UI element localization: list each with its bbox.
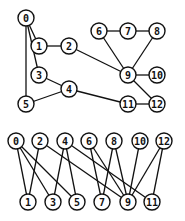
node-label: 5 (23, 99, 29, 110)
top-node-4: 4 (61, 81, 77, 97)
node-label: 5 (74, 197, 80, 208)
node-label: 12 (158, 136, 170, 147)
node-label: 6 (96, 26, 102, 37)
node-label: 11 (122, 99, 134, 110)
top-node-1: 1 (31, 38, 47, 54)
top-node-5: 5 (18, 96, 34, 112)
original-graph: 0123456789101112 (18, 10, 165, 112)
node-label: 9 (125, 70, 131, 81)
bottom-node-6: 6 (81, 133, 97, 149)
node-label: 8 (111, 136, 117, 147)
node-label: 2 (37, 136, 43, 147)
bottom-node-0: 0 (8, 133, 24, 149)
node-label: 0 (13, 136, 19, 147)
node-label: 1 (25, 197, 31, 208)
node-label: 6 (86, 136, 92, 147)
bottom-edge-8-7 (102, 141, 114, 202)
node-label: 8 (154, 26, 160, 37)
top-node-7: 7 (120, 23, 136, 39)
bottom-node-11: 11 (144, 194, 160, 210)
node-label: 4 (62, 136, 68, 147)
node-label: 4 (66, 84, 72, 95)
bottom-node-3: 3 (45, 194, 61, 210)
bottom-edge-0-5 (16, 141, 77, 202)
top-node-10: 10 (149, 67, 165, 83)
bottom-edge-4-5 (65, 141, 77, 202)
node-label: 7 (99, 197, 105, 208)
bottom-node-5: 5 (69, 194, 85, 210)
bottom-node-1: 1 (20, 194, 36, 210)
node-label: 10 (151, 70, 163, 81)
node-label: 0 (23, 13, 29, 24)
bipartite-graph: 0246810121357911 (8, 133, 172, 210)
top-node-8: 8 (149, 23, 165, 39)
node-label: 2 (66, 41, 72, 52)
graph-diagram: 0123456789101112 0246810121357911 (0, 0, 185, 221)
bottom-edge-2-1 (28, 141, 40, 202)
node-label: 1 (36, 41, 42, 52)
top-node-12: 12 (149, 96, 165, 112)
top-node-3: 3 (31, 67, 47, 83)
top-node-0: 0 (18, 10, 34, 26)
bottom-node-7: 7 (94, 194, 110, 210)
bottom-node-9: 9 (120, 194, 136, 210)
node-label: 3 (36, 70, 42, 81)
bottom-edge-2-9 (40, 141, 128, 202)
bottom-node-10: 10 (132, 133, 148, 149)
node-label: 3 (50, 197, 56, 208)
bottom-edge-4-3 (53, 141, 65, 202)
bottom-node-2: 2 (32, 133, 48, 149)
top-node-9: 9 (120, 67, 136, 83)
node-label: 9 (125, 197, 131, 208)
node-label: 10 (134, 136, 146, 147)
bottom-edge-8-9 (114, 141, 128, 202)
node-label: 11 (146, 197, 158, 208)
bottom-node-4: 4 (57, 133, 73, 149)
top-node-11: 11 (120, 96, 136, 112)
top-node-6: 6 (91, 23, 107, 39)
bottom-node-8: 8 (106, 133, 122, 149)
node-label: 7 (125, 26, 131, 37)
top-edge-4-11 (69, 89, 128, 104)
node-label: 12 (151, 99, 163, 110)
bottom-node-12: 12 (156, 133, 172, 149)
top-node-2: 2 (61, 38, 77, 54)
